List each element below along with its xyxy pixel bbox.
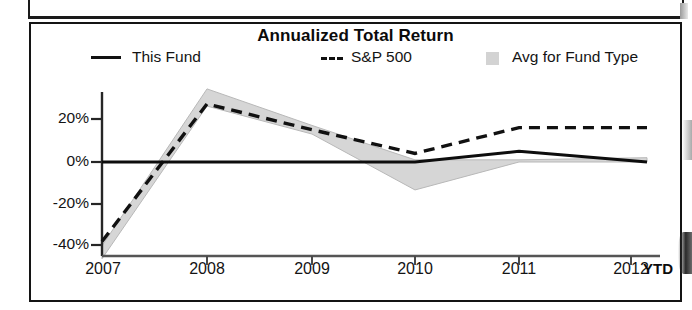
- screenshot-root: Annualized Total Return This Fund S&P 50…: [0, 0, 692, 310]
- scan-page-curl: [678, 232, 692, 274]
- scan-edge-shadow-top: [680, 3, 688, 19]
- scan-edge-shadow-mid: [682, 120, 692, 160]
- x-axis-ticks: [207, 256, 631, 265]
- avg-fund-type-band: [102, 89, 647, 259]
- annualized-total-return-panel: Annualized Total Return This Fund S&P 50…: [29, 22, 682, 302]
- top-panel-edge: [28, 0, 684, 19]
- y-axis-ticks: [91, 119, 102, 245]
- chart-plot-area: [31, 24, 680, 300]
